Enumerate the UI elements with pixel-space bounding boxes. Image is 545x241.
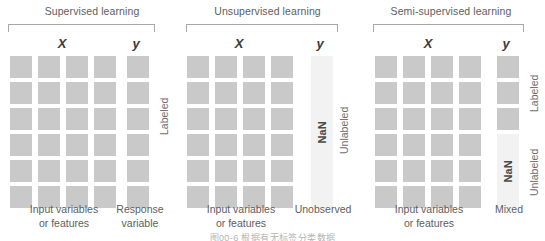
matrix-cell (66, 160, 88, 182)
matrix-cell (431, 160, 453, 182)
side-label-labeled-supervised: Labeled (158, 86, 170, 146)
matrix-cell (94, 82, 116, 104)
matrix-cell (187, 160, 209, 182)
matrix-cell (271, 82, 293, 104)
column-header-x-semi-supervised: X (373, 36, 483, 51)
matrix-cell (431, 134, 453, 156)
matrix-cell (94, 56, 116, 78)
caption-y-line2: variable (112, 216, 168, 230)
caption-x-line2: or features (2, 216, 126, 230)
response-cell-labeled (497, 56, 519, 78)
matrix-cell (187, 82, 209, 104)
matrix-cell (403, 108, 425, 130)
matrix-cell (271, 56, 293, 78)
matrix-cell (431, 82, 453, 104)
feature-matrix-semi-supervised (375, 56, 481, 208)
column-bracket-semi-supervised (373, 24, 524, 32)
response-cell (127, 160, 149, 182)
response-cell-labeled (497, 82, 519, 104)
matrix-cell (243, 108, 265, 130)
caption-y-unsupervised: Unobserved (292, 202, 354, 216)
matrix-cell (375, 134, 397, 156)
matrix-cell (431, 56, 453, 78)
matrix-cell (243, 56, 265, 78)
matrix-cell (459, 56, 481, 78)
learning-paradigms-diagram: Supervised learning X y (0, 0, 545, 241)
caption-x-semi-supervised: Input variables or features (367, 202, 491, 230)
matrix-cell (66, 82, 88, 104)
matrix-cell (38, 56, 60, 78)
matrix-cell (403, 134, 425, 156)
matrix-cell (38, 82, 60, 104)
response-column-semi-supervised (497, 56, 519, 130)
matrix-cell (10, 134, 32, 156)
panel-title-semi-supervised: Semi-supervised learning (357, 5, 545, 17)
caption-x-unsupervised: Input variables or features (180, 202, 302, 230)
matrix-cell (38, 160, 60, 182)
matrix-cell (215, 82, 237, 104)
matrix-cell (10, 160, 32, 182)
matrix-cell (215, 134, 237, 156)
matrix-cell (10, 108, 32, 130)
side-label-unlabeled-unsupervised: Unlabeled (338, 94, 350, 166)
matrix-cell (243, 82, 265, 104)
matrix-cell (215, 56, 237, 78)
nan-label: NaN (502, 160, 514, 183)
side-label-unlabeled-semi-supervised: Unlabeled (528, 133, 540, 211)
matrix-cell (271, 160, 293, 182)
side-label-labeled-semi-supervised: Labeled (528, 58, 540, 128)
caption-y-line1: Unobserved (292, 202, 354, 216)
column-header-x-supervised: X (8, 36, 116, 51)
matrix-cell (403, 160, 425, 182)
caption-x-line1: Input variables (2, 202, 126, 216)
matrix-cell (243, 134, 265, 156)
caption-x-line1: Input variables (367, 202, 491, 216)
panel-unsupervised-learning: Unsupervised learning X y (180, 0, 355, 241)
matrix-cell (375, 56, 397, 78)
matrix-cell (459, 82, 481, 104)
caption-x-line1: Input variables (180, 202, 302, 216)
matrix-cell (431, 108, 453, 130)
matrix-cell (459, 134, 481, 156)
response-cell-labeled (497, 108, 519, 130)
caption-y-line1: Response (112, 202, 168, 216)
matrix-cell (94, 160, 116, 182)
matrix-cell (66, 108, 88, 130)
figure-caption: 图00-6 根据有无标签分类数据 (0, 231, 545, 241)
matrix-cell (187, 134, 209, 156)
caption-x-line2: or features (367, 216, 491, 230)
matrix-cell (271, 108, 293, 130)
matrix-cell (403, 82, 425, 104)
matrix-cell (215, 108, 237, 130)
response-cell (127, 108, 149, 130)
caption-y-line1: Mixed (481, 202, 537, 216)
column-bracket-unsupervised (186, 24, 338, 32)
matrix-cell (187, 56, 209, 78)
matrix-cell (94, 134, 116, 156)
matrix-cell (66, 56, 88, 78)
caption-x-supervised: Input variables or features (2, 202, 126, 230)
nan-label: NaN (316, 121, 328, 144)
feature-matrix-unsupervised (187, 56, 293, 208)
response-cell (127, 134, 149, 156)
response-nan-bar-semi-supervised: NaN (497, 134, 519, 208)
panel-semi-supervised-learning: Semi-supervised learning X y (357, 0, 545, 241)
panel-title-unsupervised: Unsupervised learning (180, 5, 355, 17)
matrix-cell (10, 56, 32, 78)
response-cell (127, 82, 149, 104)
matrix-cell (38, 134, 60, 156)
column-header-y-unsupervised: y (302, 36, 338, 51)
matrix-cell (375, 82, 397, 104)
column-bracket-supervised (8, 24, 155, 32)
matrix-cell (10, 82, 32, 104)
response-cell (127, 56, 149, 78)
matrix-cell (187, 108, 209, 130)
panel-title-supervised: Supervised learning (0, 5, 182, 17)
matrix-cell (375, 160, 397, 182)
matrix-cell (375, 108, 397, 130)
column-header-y-supervised: y (118, 36, 154, 51)
matrix-cell (243, 160, 265, 182)
column-header-x-unsupervised: X (184, 36, 294, 51)
caption-x-line2: or features (180, 216, 302, 230)
column-header-y-semi-supervised: y (488, 36, 524, 51)
